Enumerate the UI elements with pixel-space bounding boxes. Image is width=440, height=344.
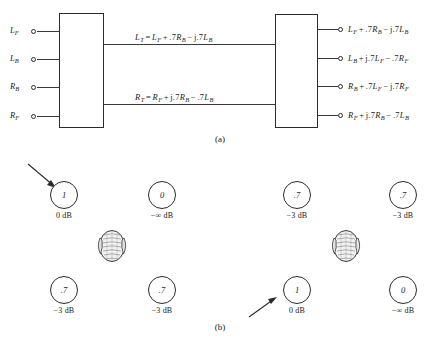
transmission-line-rt — [104, 104, 275, 105]
equation-rt: RT=RF+j.7RB−.7LB — [135, 92, 214, 103]
figure-container: LF LB RB RF LT=LF+.7RB−j.7LB — [0, 0, 440, 344]
output-expression-2: LB+j.7LF−.7RF — [348, 53, 409, 64]
output-expression-4: RF+j.7RB−.7LB — [348, 110, 409, 121]
listener-head-left — [95, 226, 129, 266]
input-terminal-lf — [31, 29, 36, 34]
output-wire-4 — [318, 115, 338, 116]
input-wire-lf — [37, 31, 59, 32]
output-terminal-3 — [338, 84, 343, 89]
speaker-right-front-right: .7 — [389, 181, 417, 209]
input-terminal-rf — [31, 114, 36, 119]
speaker-right-back-right: 0 — [389, 276, 417, 304]
speaker-right-front-left-db: −3 dB — [267, 211, 327, 220]
input-terminal-lb — [31, 57, 36, 62]
output-expression-1: LF+.7RB−j.7LB — [348, 24, 409, 35]
speaker-right-back-right-db: −∞ dB — [373, 306, 433, 315]
input-label-lb: LB — [10, 53, 19, 64]
input-label-rb: RB — [10, 81, 19, 92]
encoder-box — [59, 13, 104, 128]
pointer-arrow-right — [247, 289, 287, 323]
input-terminal-rb — [31, 85, 36, 90]
speaker-left-front-right-db: −∞ dB — [132, 211, 192, 220]
speaker-left-back-left: .7 — [50, 276, 78, 304]
caption-panel-a: (a) — [200, 134, 240, 144]
input-wire-lb — [37, 59, 59, 60]
output-wire-3 — [318, 86, 338, 87]
input-wire-rf — [37, 116, 59, 117]
speaker-right-back-left: 1 — [283, 276, 311, 304]
decoder-box — [275, 14, 318, 128]
speaker-left-front-left-db: 0 dB — [34, 211, 94, 220]
speaker-right-front-right-db: −3 dB — [373, 211, 433, 220]
transmission-line-lt — [104, 44, 275, 45]
output-terminal-4 — [338, 113, 343, 118]
speaker-left-back-right: .7 — [148, 276, 176, 304]
output-wire-1 — [318, 29, 338, 30]
listener-head-right — [329, 226, 363, 266]
input-wire-rb — [37, 87, 59, 88]
speaker-left-front-right: 0 — [148, 181, 176, 209]
caption-panel-b: (b) — [200, 322, 240, 332]
speaker-left-front-left: 1 — [50, 181, 78, 209]
speaker-left-back-right-db: −3 dB — [132, 306, 192, 315]
output-wire-2 — [318, 58, 338, 59]
panel-b: 1 0 dB 0 −∞ dB .7 −3 dB — [0, 150, 440, 344]
speaker-right-front-left: .7 — [283, 181, 311, 209]
input-label-lf: LF — [10, 25, 19, 36]
panel-a: LF LB RB RF LT=LF+.7RB−j.7LB — [0, 0, 440, 150]
input-label-rf: RF — [10, 110, 19, 121]
output-expression-3: RB+.7LF−j.7RF — [348, 81, 409, 92]
speaker-left-back-left-db: −3 dB — [34, 306, 94, 315]
equation-lt: LT=LF+.7RB−j.7LB — [135, 32, 213, 43]
output-terminal-2 — [338, 56, 343, 61]
output-terminal-1 — [338, 27, 343, 32]
